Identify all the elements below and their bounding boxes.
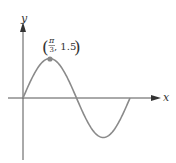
x-axis-label: x bbox=[163, 91, 170, 104]
svg-text:, 1.5: , 1.5 bbox=[54, 41, 76, 52]
y-axis-label: y bbox=[20, 12, 28, 25]
point-annotation: ( π 3 , 1.5 ) bbox=[42, 36, 81, 57]
x-axis-arrow-icon bbox=[151, 95, 161, 101]
peak-point bbox=[47, 56, 52, 61]
svg-text:): ) bbox=[74, 37, 81, 57]
chart: y x ( π 3 , 1.5 ) bbox=[0, 0, 176, 163]
svg-text:(: ( bbox=[42, 37, 49, 57]
